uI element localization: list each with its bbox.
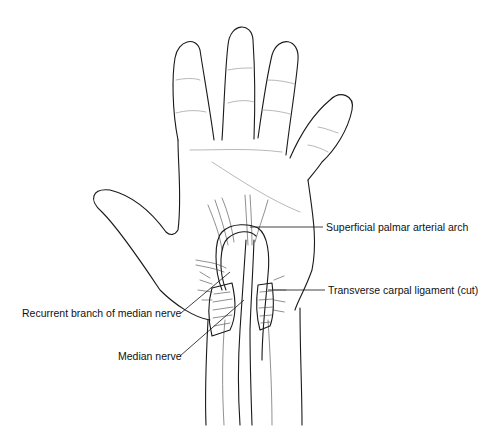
middle-finger — [222, 27, 255, 140]
leader-median-nerve — [180, 300, 244, 356]
index-finger — [173, 42, 214, 140]
hand-illustration — [0, 0, 497, 433]
ligament-left-cut — [209, 283, 235, 336]
anatomy-figure: Superficial palmar arterial arch Transve… — [0, 0, 497, 433]
label-superficial-palmar-arch: Superficial palmar arterial arch — [326, 221, 468, 233]
thumb — [94, 140, 210, 320]
label-recurrent-branch: Recurrent branch of median nerve — [22, 307, 181, 319]
leader-recurrent-branch — [181, 272, 230, 313]
label-median-nerve: Median nerve — [118, 350, 182, 362]
tendons-and-vessels — [196, 195, 272, 425]
ring-finger — [258, 42, 298, 155]
label-transverse-carpal-ligament: Transverse carpal ligament (cut) — [328, 284, 478, 296]
little-finger — [290, 95, 352, 180]
